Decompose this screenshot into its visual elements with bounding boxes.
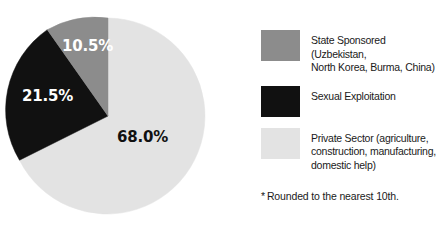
legend-label-line: domestic help) bbox=[311, 159, 436, 173]
footnote-text: Rounded to the nearest 10th. bbox=[267, 190, 399, 202]
legend-item-sexual-exploitation[interactable]: Sexual Exploitation bbox=[261, 86, 440, 117]
legend-swatch-state-sponsored bbox=[261, 30, 300, 61]
legend-label-private-sector: Private Sector (agriculture, constructio… bbox=[311, 128, 436, 173]
pie-label-private-sector: 68.0% bbox=[117, 130, 168, 145]
chart-footnote: *Rounded to the nearest 10th. bbox=[261, 190, 399, 203]
legend-swatch-sexual-exploitation bbox=[261, 86, 300, 117]
legend-swatch-private-sector bbox=[261, 128, 300, 159]
pie-chart-figure: 10.5% 21.5% 68.0% State Sponsored (Uzbek… bbox=[0, 0, 440, 231]
legend-label-sexual-exploitation: Sexual Exploitation bbox=[311, 86, 396, 104]
legend-item-private-sector[interactable]: Private Sector (agriculture, constructio… bbox=[261, 128, 440, 173]
chart-legend: State Sponsored (Uzbekistan, North Korea… bbox=[261, 30, 440, 183]
legend-label-line: Private Sector (agriculture, bbox=[311, 132, 436, 146]
pie-label-sexual-exploitation: 21.5% bbox=[22, 89, 73, 104]
footnote-marker: * bbox=[261, 190, 265, 202]
legend-label-line: North Korea, Burma, China) bbox=[311, 61, 440, 75]
pie-label-state-sponsored: 10.5% bbox=[62, 39, 113, 54]
pie-chart-svg bbox=[0, 0, 232, 231]
pie-chart-plot-area: 10.5% 21.5% 68.0% bbox=[0, 0, 232, 231]
legend-item-state-sponsored[interactable]: State Sponsored (Uzbekistan, North Korea… bbox=[261, 30, 440, 75]
legend-label-line: construction, manufacturing, bbox=[311, 145, 436, 159]
legend-label-line: State Sponsored (Uzbekistan, bbox=[311, 34, 440, 61]
legend-label-state-sponsored: State Sponsored (Uzbekistan, North Korea… bbox=[311, 30, 440, 75]
legend-label-line: Sexual Exploitation bbox=[311, 90, 396, 104]
